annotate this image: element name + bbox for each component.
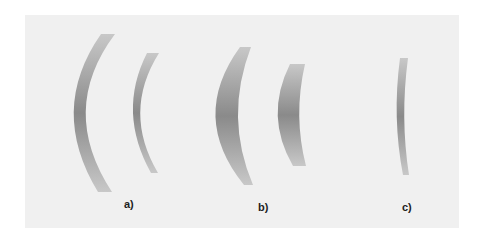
label-a: a)	[124, 198, 134, 210]
lens-c1	[397, 58, 409, 175]
lens-a1	[74, 34, 115, 192]
lens-b1	[215, 47, 253, 185]
label-c: c)	[402, 201, 412, 213]
label-b: b)	[258, 201, 268, 213]
lens-b2	[278, 64, 306, 166]
lens-a2	[133, 53, 159, 173]
